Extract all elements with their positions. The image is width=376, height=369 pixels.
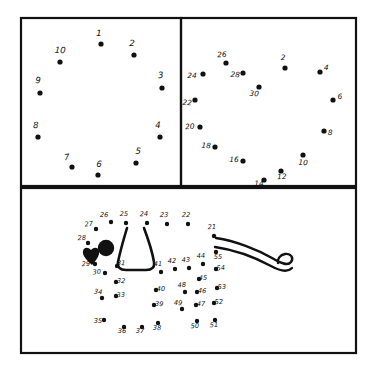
dot-number-label: 39 — [155, 300, 164, 309]
dot-marker[interactable]: 28 — [230, 70, 245, 80]
dot-marker[interactable]: 28 — [77, 234, 90, 246]
dot-marker[interactable]: 41 — [154, 260, 163, 274]
dot-marker[interactable]: 36 — [118, 325, 127, 335]
dot-number-label: 51 — [210, 321, 219, 329]
dot-marker[interactable]: 22 — [182, 211, 191, 226]
dot-number-label: 28 — [77, 234, 86, 243]
dot-point — [212, 144, 217, 149]
dot-marker[interactable]: 20 — [185, 122, 203, 132]
panel-top-right-dots: 24681012141618202224262830 — [182, 50, 343, 188]
dot-marker[interactable]: 32 — [114, 277, 126, 285]
dot-marker[interactable]: 51 — [210, 318, 219, 329]
dot-number-label: 53 — [217, 283, 226, 292]
dot-point — [330, 97, 335, 102]
dot-marker[interactable]: 42 — [168, 257, 178, 271]
dot-number-label: 46 — [198, 287, 207, 295]
dot-marker[interactable]: 30 — [249, 84, 261, 98]
dot-marker[interactable]: 40 — [154, 285, 165, 293]
dot-number-label: 38 — [153, 324, 162, 332]
dot-marker[interactable]: 31 — [115, 259, 126, 269]
dot-marker[interactable]: 50 — [191, 319, 200, 330]
dot-marker[interactable]: 53 — [215, 283, 227, 292]
dot-marker[interactable]: 33 — [114, 291, 126, 300]
dot-marker[interactable]: 8 — [321, 128, 332, 137]
dot-number-label: 41 — [154, 260, 163, 268]
dot-marker[interactable]: 45 — [197, 274, 207, 282]
dot-marker[interactable]: 39 — [152, 300, 164, 309]
dot-marker[interactable]: 18 — [201, 141, 217, 151]
dot-marker[interactable]: 55 — [214, 250, 223, 261]
dot-marker[interactable]: 48 — [177, 281, 187, 295]
dot-marker[interactable]: 23 — [160, 211, 169, 226]
dot-point — [282, 65, 287, 70]
dot-marker[interactable]: 35 — [94, 317, 106, 325]
dot-number-label: 21 — [208, 223, 217, 231]
dot-number-label: 20 — [185, 122, 195, 132]
dot-marker[interactable]: 25 — [120, 210, 129, 225]
dot-number-label: 34 — [94, 288, 103, 297]
dot-marker[interactable]: 2 — [129, 38, 136, 58]
dot-number-label: 42 — [168, 257, 177, 265]
dot-marker[interactable]: 10 — [54, 45, 66, 65]
dot-marker[interactable]: 26 — [217, 50, 229, 66]
dot-number-label: 30 — [249, 89, 259, 99]
dot-marker[interactable]: 54 — [214, 264, 226, 273]
dot-number-label: 29 — [82, 260, 91, 268]
dot-point — [240, 70, 245, 75]
dot-marker[interactable]: 3 — [158, 70, 165, 91]
dot-number-label: 3 — [158, 70, 164, 80]
dot-marker[interactable]: 7 — [64, 152, 75, 170]
dot-number-label: 25 — [120, 210, 129, 218]
dot-marker[interactable]: 47 — [194, 300, 206, 308]
dot-marker[interactable]: 6 — [95, 159, 102, 178]
dot-marker[interactable]: 44 — [196, 252, 205, 266]
dot-number-label: 30 — [92, 268, 101, 277]
dot-marker[interactable]: 52 — [212, 298, 224, 307]
dot-point — [183, 290, 187, 294]
dot-marker[interactable]: 12 — [277, 168, 287, 181]
dot-marker[interactable]: 43 — [182, 256, 192, 270]
dot-marker[interactable]: 9 — [35, 75, 42, 96]
dot-marker[interactable]: 8 — [33, 120, 41, 140]
dot-number-label: 40 — [157, 285, 166, 293]
dot-number-label: 24 — [187, 71, 197, 80]
dot-number-label: 31 — [117, 259, 126, 268]
dot-point — [200, 71, 205, 76]
dot-point — [37, 90, 42, 95]
dot-marker[interactable]: 30 — [92, 268, 107, 277]
dot-number-label: 32 — [117, 277, 126, 285]
dot-number-label: 54 — [216, 264, 225, 273]
dot-number-label: 55 — [214, 253, 223, 261]
dot-marker[interactable]: 34 — [94, 288, 105, 301]
dot-number-label: 4 — [155, 120, 161, 130]
dot-number-label: 43 — [182, 256, 191, 264]
dot-marker[interactable]: 5 — [133, 146, 141, 166]
dot-marker[interactable]: 26 — [100, 211, 113, 224]
dot-marker[interactable]: 4 — [317, 63, 329, 75]
dot-marker[interactable]: 49 — [174, 299, 185, 311]
dot-marker[interactable]: 16 — [229, 155, 245, 164]
dot-point — [95, 172, 100, 177]
dot-point — [157, 134, 162, 139]
dot-number-label: 4 — [324, 63, 329, 72]
dot-marker[interactable]: 6 — [330, 92, 342, 103]
dot-marker[interactable]: 1 — [96, 28, 103, 47]
dot-number-label: 7 — [64, 152, 71, 162]
dot-marker[interactable]: 10 — [298, 152, 308, 167]
dot-marker[interactable]: 21 — [208, 223, 217, 238]
dot-marker[interactable]: 24 — [140, 210, 150, 225]
dot-marker[interactable]: 4 — [155, 120, 163, 140]
dot-marker[interactable]: 27 — [84, 220, 98, 232]
dot-point — [103, 271, 107, 275]
dot-marker[interactable]: 37 — [136, 325, 145, 335]
dot-point — [159, 270, 163, 274]
dot-marker[interactable]: 46 — [195, 287, 207, 295]
dot-number-label: 14 — [254, 179, 264, 188]
dot-marker[interactable]: 24 — [187, 71, 205, 80]
dot-marker[interactable]: 38 — [153, 321, 162, 332]
dot-point — [57, 59, 62, 64]
dot-number-label: 47 — [197, 300, 206, 308]
dot-marker[interactable]: 2 — [281, 53, 288, 71]
dot-number-label: 9 — [35, 75, 41, 85]
dot-marker[interactable]: 22 — [182, 97, 197, 107]
